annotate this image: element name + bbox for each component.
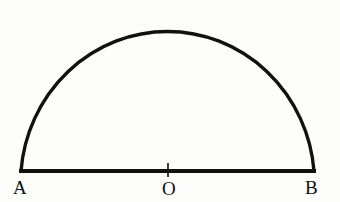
vertex-label-b: B [305, 178, 318, 197]
figure-canvas [0, 0, 340, 202]
vertex-label-o: O [162, 179, 176, 198]
vertex-label-a: A [13, 178, 27, 197]
geometry-figure: A O B [0, 0, 340, 202]
